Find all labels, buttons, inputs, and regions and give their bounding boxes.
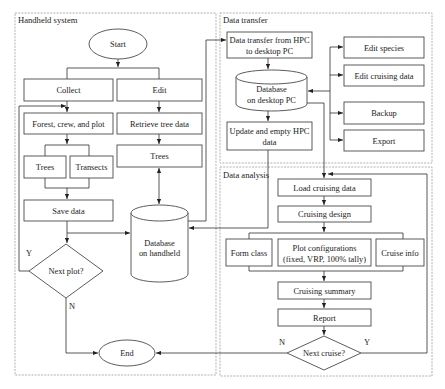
- trees-collect-label: Trees: [36, 163, 54, 172]
- next-plot-yes-label: Y: [26, 249, 32, 258]
- edit-label: Edit: [153, 86, 168, 95]
- load-cruising-data-label: Load cruising data: [293, 184, 356, 193]
- backup-node: Backup: [344, 102, 424, 124]
- form-class-node: Form class: [226, 239, 272, 266]
- trees-edit-label: Trees: [150, 152, 168, 161]
- next-plot-label: Next plot?: [48, 267, 83, 276]
- cruise-info-node: Cruise info: [376, 239, 424, 266]
- form-class-label: Form class: [231, 249, 268, 258]
- plot-configurations-label-2: (fixed, VRP, 100% tally): [283, 255, 366, 264]
- next-cruise-no-label: N: [279, 338, 285, 347]
- export-label: Export: [373, 137, 396, 146]
- trees-edit-node: Trees: [117, 145, 202, 167]
- transfer-from-hpc-node: Data transfer from HPC to desktop PC: [227, 32, 312, 58]
- data-analysis-label: Data analysis: [223, 170, 270, 180]
- transfer-from-hpc-label-1: Data transfer from HPC: [229, 36, 310, 45]
- retrieve-tree-data-node: Retrieve tree data: [117, 113, 202, 134]
- start-label: Start: [110, 40, 126, 49]
- collect-node: Collect: [24, 79, 113, 101]
- backup-label: Backup: [371, 109, 397, 118]
- data-transfer-label: Data transfer: [223, 15, 268, 25]
- next-plot-no-label: N: [69, 302, 75, 311]
- forest-crew-plot-node: Forest, crew, and plot: [24, 113, 113, 134]
- database-desktop-label-2: on desktop PC: [247, 96, 296, 105]
- edit-node: Edit: [117, 79, 202, 101]
- trees-collect-node: Trees: [24, 156, 66, 178]
- database-desktop-cylinder: Database on desktop PC: [236, 70, 307, 111]
- cruising-summary-label: Cruising summary: [293, 287, 356, 296]
- report-node: Report: [278, 309, 371, 326]
- transects-label: Transects: [76, 163, 108, 172]
- start-node: Start: [89, 29, 147, 59]
- database-handheld-cylinder: Database on handheld: [131, 205, 188, 282]
- database-desktop-label-1: Database: [256, 85, 287, 94]
- update-empty-hpc-label-1: Update and empty HPC: [230, 127, 310, 136]
- cruising-design-label: Cruising design: [298, 210, 352, 219]
- cruise-info-label: Cruise info: [381, 249, 418, 258]
- plot-configurations-node: Plot configurations (fixed, VRP, 100% ta…: [278, 239, 371, 266]
- handheld-system-group: [15, 13, 216, 375]
- edit-species-label: Edit species: [364, 44, 404, 53]
- edit-species-node: Edit species: [344, 37, 424, 58]
- retrieve-tree-data-label: Retrieve tree data: [130, 120, 189, 129]
- save-data-node: Save data: [24, 200, 113, 221]
- update-empty-hpc-label-2: data: [263, 138, 277, 147]
- transfer-from-hpc-label-2: to desktop PC: [246, 47, 293, 56]
- database-handheld-label-2: on handheld: [139, 249, 181, 258]
- next-cruise-yes-label: Y: [364, 338, 370, 347]
- export-node: Export: [344, 130, 424, 151]
- database-handheld-label-1: Database: [144, 239, 175, 248]
- next-plot-decision: Next plot?: [29, 244, 103, 298]
- end-label: End: [120, 349, 134, 358]
- edit-cruising-data-node: Edit cruising data: [344, 65, 424, 86]
- transfer-connectors: [268, 47, 343, 178]
- handheld-system-label: Handheld system: [18, 15, 78, 25]
- save-data-label: Save data: [52, 207, 85, 216]
- edit-cruising-data-label: Edit cruising data: [354, 72, 413, 81]
- end-node: End: [99, 340, 155, 366]
- update-empty-hpc-node: Update and empty HPC data: [227, 122, 312, 150]
- cruising-summary-node: Cruising summary: [278, 282, 371, 299]
- next-cruise-label: Next cruise?: [303, 349, 345, 358]
- collect-label: Collect: [56, 86, 81, 95]
- next-cruise-decision: Next cruise?: [287, 336, 361, 370]
- flowchart-diagram: Handheld system Data transfer Data analy…: [0, 0, 445, 389]
- cruising-design-node: Cruising design: [278, 206, 371, 222]
- report-label: Report: [313, 314, 336, 323]
- transects-node: Transects: [70, 156, 113, 178]
- load-cruising-data-node: Load cruising data: [278, 179, 371, 196]
- plot-configurations-label-1: Plot configurations: [293, 244, 357, 253]
- forest-crew-plot-label: Forest, crew, and plot: [32, 120, 105, 129]
